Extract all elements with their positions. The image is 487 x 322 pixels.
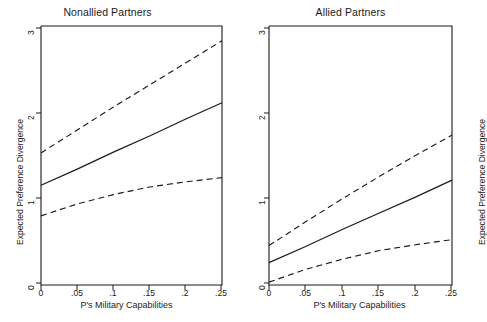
axis-frame-allied — [269, 26, 452, 285]
data-series-allied — [269, 135, 452, 282]
axis-frame-nonallied — [41, 26, 222, 285]
panel-nonallied-partners: Nonallied Partners Expected Preference D… — [0, 0, 231, 322]
axis-ticks-allied — [264, 28, 451, 290]
upper-confidence-band-allied — [269, 135, 452, 246]
y-axis-label-allied: Expected Preference Divergence — [477, 119, 487, 245]
predicted-line-allied — [269, 180, 452, 262]
data-series-nonallied — [41, 41, 222, 216]
panel-allied-partners: Allied Partners Expected Preference Dive… — [231, 0, 462, 322]
lower-confidence-band-allied — [269, 240, 452, 283]
plot-area-allied — [231, 0, 462, 322]
plot-area-nonallied — [0, 0, 231, 322]
lower-confidence-band-nonallied — [41, 178, 222, 216]
upper-confidence-band-nonallied — [41, 41, 222, 153]
predicted-line-nonallied — [41, 103, 222, 185]
axis-ticks-nonallied — [36, 28, 221, 290]
